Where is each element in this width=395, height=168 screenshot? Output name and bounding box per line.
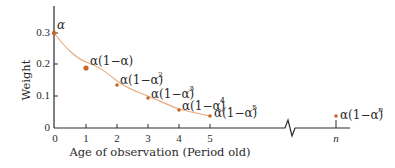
- point-label-n: α(1−α) n: [340, 105, 383, 122]
- point-4: [177, 108, 181, 112]
- y-axis-label: Weight: [19, 59, 33, 100]
- point-label-0: α: [57, 18, 65, 32]
- svg-text:2: 2: [158, 70, 163, 79]
- x-axis-label: Age of observation (Period old): [68, 145, 250, 159]
- axis-break-icon: [280, 120, 350, 136]
- svg-text:n: n: [378, 105, 383, 114]
- point-0: [52, 31, 56, 35]
- point-label-5: α(1−α) 5: [214, 103, 257, 120]
- svg-text:α(1−α): α(1−α): [120, 73, 163, 87]
- point-3: [146, 96, 150, 100]
- y-tick-0.2: 0.2: [36, 57, 50, 69]
- x-tick-0: 0: [52, 132, 58, 144]
- svg-text:α(1−α): α(1−α): [340, 108, 383, 122]
- y-tick-0.3: 0.3: [36, 26, 50, 38]
- chart: 0 0.1 0.2 0.3 0 1 2 3 4 5 n Age of obser…: [0, 0, 395, 168]
- point-5: [208, 114, 212, 118]
- svg-text:α(1−α): α(1−α): [214, 106, 257, 120]
- y-tick-0: 0: [45, 121, 51, 133]
- x-tick-1: 1: [83, 132, 89, 144]
- svg-text:3: 3: [189, 84, 194, 93]
- svg-text:4: 4: [220, 96, 225, 105]
- point-2: [115, 83, 119, 87]
- point-1: [83, 65, 88, 70]
- point-n: [334, 114, 338, 118]
- y-tick-0.1: 0.1: [36, 89, 50, 101]
- svg-text:5: 5: [252, 103, 257, 112]
- point-label-2: α(1−α) 2: [120, 70, 163, 87]
- x-ticks: [86, 120, 336, 128]
- x-tick-3: 3: [145, 132, 151, 144]
- point-label-1: α(1−α): [90, 54, 133, 68]
- x-tick-n: n: [333, 132, 339, 144]
- x-tick-5: 5: [207, 132, 213, 144]
- x-tick-2: 2: [114, 132, 120, 144]
- x-tick-4: 4: [176, 132, 182, 144]
